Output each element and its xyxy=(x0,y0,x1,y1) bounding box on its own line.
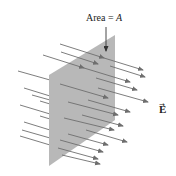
area-symbol: A xyxy=(116,12,122,23)
field-line-arrow xyxy=(62,155,100,164)
field-line-arrow xyxy=(18,71,50,80)
field-line-arrow xyxy=(20,136,50,145)
electric-field-label: E xyxy=(159,103,166,115)
diagram-canvas xyxy=(0,0,176,176)
field-line-arrow xyxy=(40,116,50,119)
field-line-arrow xyxy=(110,66,145,77)
field-line-arrow xyxy=(24,122,50,130)
field-line-arrow xyxy=(20,105,50,114)
area-label: Area = A xyxy=(86,12,122,23)
field-line-arrow xyxy=(40,101,50,104)
area-label-text: Area = xyxy=(86,12,116,23)
field-line-arrow xyxy=(22,130,50,138)
field-line-arrow xyxy=(32,95,50,100)
electric-flux-diagram: Area = A → E xyxy=(0,0,176,176)
field-line-arrow xyxy=(24,88,50,96)
